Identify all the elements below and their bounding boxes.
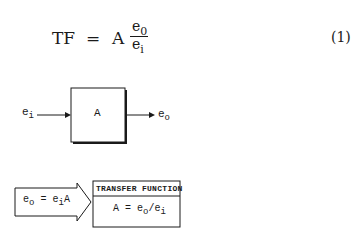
transfer-box-formula: A = eo/ei xyxy=(113,203,166,217)
relation-text: eo = eiA xyxy=(23,194,70,208)
input-signal-label: ei xyxy=(22,106,34,121)
input-arrow-head-icon xyxy=(65,112,71,118)
output-arrow-head-icon xyxy=(149,112,155,118)
transfer-box-title: TRANSFER FUNCTION xyxy=(96,184,183,193)
block-label: A xyxy=(94,107,101,119)
output-signal-label: eo xyxy=(158,108,170,123)
